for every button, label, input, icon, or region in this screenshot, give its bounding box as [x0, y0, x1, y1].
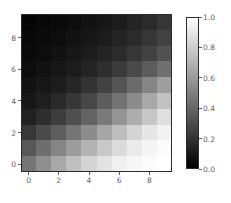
colorbar-tick-label: 0.0	[203, 165, 215, 174]
colorbar-ticks: 0.00.20.40.60.81.0	[0, 0, 231, 203]
colorbar-tick-mark	[199, 138, 202, 139]
colorbar-tick-label: 0.4	[203, 104, 215, 113]
colorbar-tick-label: 0.2	[203, 134, 215, 143]
colorbar-tick-mark	[199, 47, 202, 48]
figure-canvas: 02468 02468 0.00.20.40.60.81.0	[0, 0, 231, 203]
colorbar-tick-mark	[199, 17, 202, 18]
colorbar-tick-mark	[199, 77, 202, 78]
colorbar-tick-mark	[199, 169, 202, 170]
colorbar-tick-label: 1.0	[203, 13, 215, 22]
colorbar-tick-label: 0.8	[203, 43, 215, 52]
colorbar-tick-mark	[199, 108, 202, 109]
colorbar-tick-label: 0.6	[203, 73, 215, 82]
